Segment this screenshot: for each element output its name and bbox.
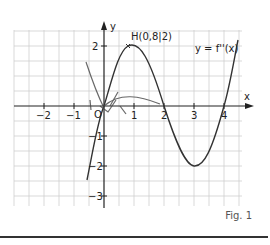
x-tick-label: −2 [36,110,51,121]
point-label: H(0,8|2) [131,31,172,43]
axis-x-label: x [244,91,250,102]
x-tick-label: −1 [66,110,81,121]
x-tick-label: 3 [191,110,197,121]
x-tick-label: 1 [131,110,137,121]
y-tick-label: −3 [88,191,103,202]
axis-y-label: y [110,21,116,32]
divider [0,236,268,238]
graph: H(0,8|2) y = f''(x) x y O −2 −1 1 2 3 4 … [0,0,270,245]
x-axis-arrow-icon [245,103,254,109]
y-tick-label: 2 [92,41,98,52]
y-tick-label: −2 [88,161,103,172]
x-tick-label: 4 [221,110,227,121]
y-axis-arrow-icon [101,21,107,30]
curve-label: y = f''(x) [195,43,238,54]
x-tick-label: 2 [161,110,167,121]
y-tick-label: −1 [88,131,103,142]
origin-label: O [94,109,102,120]
figure-caption: Fig. 1 [225,210,252,221]
